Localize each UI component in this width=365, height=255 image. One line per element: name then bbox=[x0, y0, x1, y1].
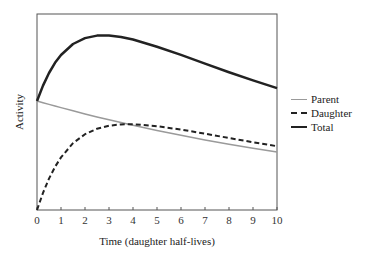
x-tick-label: 5 bbox=[154, 214, 160, 226]
x-tick-label: 2 bbox=[82, 214, 88, 226]
x-tick-label: 6 bbox=[178, 214, 184, 226]
legend-label-daughter: Daughter bbox=[311, 106, 352, 120]
series-line-total bbox=[37, 36, 277, 102]
x-tick-label: 1 bbox=[58, 214, 64, 226]
x-axis-label: Time (daughter half-lives) bbox=[99, 235, 215, 248]
x-tick-label: 8 bbox=[226, 214, 232, 226]
x-tick-label: 0 bbox=[34, 214, 40, 226]
x-tick-label: 10 bbox=[272, 214, 284, 226]
total-line-swatch-icon bbox=[291, 126, 307, 128]
daughter-dashed-swatch-icon bbox=[291, 112, 307, 114]
legend-label-total: Total bbox=[311, 120, 333, 134]
series-group bbox=[37, 36, 277, 211]
y-axis-label: Activity bbox=[13, 93, 25, 130]
legend-item-parent: Parent bbox=[291, 92, 352, 106]
x-tick-label: 7 bbox=[202, 214, 208, 226]
legend-item-daughter: Daughter bbox=[291, 106, 352, 120]
parent-line-swatch-icon bbox=[291, 99, 307, 100]
legend-item-total: Total bbox=[291, 120, 352, 134]
legend: Parent Daughter Total bbox=[291, 92, 352, 134]
series-line-daughter bbox=[37, 124, 277, 210]
x-tick-label: 9 bbox=[250, 214, 256, 226]
legend-label-parent: Parent bbox=[311, 92, 339, 106]
x-tick-label: 3 bbox=[106, 214, 112, 226]
x-tick-label: 4 bbox=[130, 214, 136, 226]
